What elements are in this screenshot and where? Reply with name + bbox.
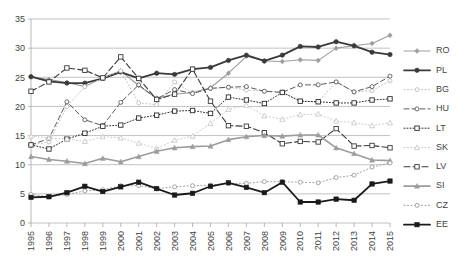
y-tick-label: 5 <box>20 189 25 199</box>
legend-item-EE[interactable]: EE <box>404 219 448 229</box>
legend-label-SK: SK <box>436 142 448 152</box>
legend-label-PL: PL <box>436 65 447 75</box>
legend-label-BG: BG <box>436 84 449 94</box>
datapoint-EE-2010 <box>298 200 302 204</box>
legend-label-LT: LT <box>436 123 446 133</box>
datapoint-HU-2012 <box>334 80 338 84</box>
legend-label-EE: EE <box>436 219 448 229</box>
datapoint-LV-2014 <box>370 143 374 147</box>
datapoint-LV-1999 <box>101 76 105 80</box>
x-tick-label: 2014 <box>367 231 377 251</box>
x-tick-label: 2009 <box>278 231 288 251</box>
datapoint-HU-2006 <box>226 85 230 89</box>
legend-item-CZ[interactable]: CZ <box>404 200 448 210</box>
x-tick-label: 2003 <box>170 231 180 251</box>
datapoint-HU-1997 <box>65 100 69 104</box>
datapoint-PL-2009 <box>280 53 284 57</box>
datapoint-LV-2015 <box>388 146 392 150</box>
x-tick-label: 2006 <box>224 231 234 251</box>
datapoint-EE-2006 <box>226 181 230 185</box>
datapoint-LV-2007 <box>244 124 248 128</box>
datapoint-HU-2005 <box>209 86 213 90</box>
x-tick-label: 2013 <box>349 231 359 251</box>
datapoint-SK-2009 <box>280 117 285 122</box>
legend-label-HU: HU <box>436 103 449 113</box>
datapoint-PL-1995 <box>29 75 33 79</box>
datapoint-LT-1996 <box>47 147 51 151</box>
x-tick-label: 2011 <box>313 231 323 250</box>
datapoint-SK-1999 <box>100 134 105 139</box>
x-tick-label: 1998 <box>80 231 90 251</box>
x-tick-label: 2000 <box>116 231 126 251</box>
legend-item-BG[interactable]: BG <box>404 84 449 94</box>
datapoint-PL-2014 <box>370 50 374 54</box>
datapoint-HU-1998 <box>83 118 87 122</box>
y-tick-label: 20 <box>15 102 25 112</box>
datapoint-PL-2015 <box>388 52 392 56</box>
datapoint-CZ-2008 <box>262 180 266 184</box>
legend-label-LV: LV <box>436 161 446 171</box>
datapoint-LT-2003 <box>172 109 176 113</box>
y-tick-label: 25 <box>15 73 25 83</box>
series-SI <box>29 132 393 165</box>
datapoint-SK-2012 <box>334 118 339 123</box>
datapoint-LT-2014 <box>370 98 374 102</box>
series-CZ <box>29 161 392 199</box>
datapoint-LV-2004 <box>190 67 194 71</box>
datapoint-LV-2006 <box>226 123 230 127</box>
legend-item-SK[interactable]: SK <box>404 142 448 152</box>
datapoint-EE-1998 <box>83 184 87 188</box>
datapoint-HU-2015 <box>388 74 392 78</box>
datapoint-LV-2013 <box>352 144 356 148</box>
legend-item-SI[interactable]: SI <box>404 180 445 190</box>
datapoint-HU-2007 <box>244 85 248 89</box>
datapoint-SK-2003 <box>172 138 177 143</box>
datapoint-SK-1998 <box>82 139 87 144</box>
datapoint-EE-1997 <box>65 190 69 194</box>
legend-marker-PL <box>415 68 419 72</box>
datapoint-LT-2007 <box>244 98 248 102</box>
datapoint-EE-2008 <box>262 190 266 194</box>
legend-label-CZ: CZ <box>436 200 448 210</box>
datapoint-LV-1996 <box>47 80 51 84</box>
legend-marker-LV <box>415 165 419 169</box>
datapoint-EE-2012 <box>334 197 338 201</box>
datapoint-RO-2011 <box>316 58 320 63</box>
datapoint-LT-1998 <box>83 131 87 135</box>
chart-canvas: 0510152025303519951996199719981999200020… <box>0 0 476 261</box>
datapoint-CZ-2007 <box>244 181 248 185</box>
datapoint-LT-2005 <box>208 111 212 115</box>
datapoint-HU-2003 <box>173 88 177 92</box>
datapoint-SK-2000 <box>118 135 123 140</box>
datapoint-RO-2012 <box>334 46 338 51</box>
datapoint-SK-2010 <box>298 112 303 117</box>
legend-marker-LT <box>415 126 419 130</box>
legend-item-LT[interactable]: LT <box>404 123 446 133</box>
legend-item-HU[interactable]: HU <box>404 103 449 113</box>
datapoint-LT-2002 <box>154 113 158 117</box>
datapoint-BG-2015 <box>388 79 392 83</box>
legend-item-LV[interactable]: LV <box>404 161 446 171</box>
datapoint-HU-2010 <box>298 83 302 87</box>
x-tick-label: 1997 <box>62 231 72 251</box>
datapoint-RO-2014 <box>370 41 374 46</box>
legend-item-PL[interactable]: PL <box>404 65 447 75</box>
datapoint-CZ-2003 <box>173 185 177 189</box>
grid-group: 05101520253035 <box>15 14 390 228</box>
datapoint-SK-2014 <box>370 123 375 128</box>
y-tick-label: 15 <box>15 131 25 141</box>
x-tick-label: 2001 <box>134 231 144 251</box>
datapoint-SK-2004 <box>190 134 195 139</box>
datapoint-SK-2011 <box>316 111 321 116</box>
datapoint-LV-2012 <box>334 126 338 130</box>
datapoint-RO-2009 <box>280 59 284 64</box>
datapoint-SK-2008 <box>262 113 267 118</box>
legend-marker-HU <box>415 107 419 111</box>
legend-marker-BG <box>415 88 419 92</box>
legend-item-RO[interactable]: RO <box>404 45 450 55</box>
datapoint-BG-2000 <box>119 69 123 73</box>
datapoint-EE-2015 <box>388 179 392 183</box>
datapoint-EE-2014 <box>370 182 374 186</box>
legend-label-RO: RO <box>436 45 450 55</box>
x-tick-label: 2010 <box>295 231 305 251</box>
